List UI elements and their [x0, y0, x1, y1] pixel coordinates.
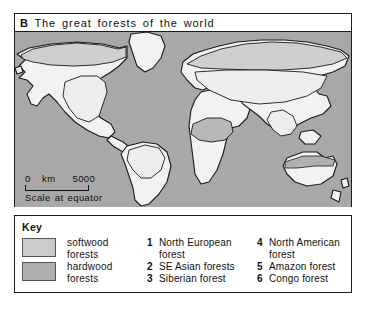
softwood-swatch-label: softwood forests	[67, 237, 109, 260]
hardwood-swatch-label: hardwood forests	[67, 261, 113, 284]
key-item-4-line1: North American	[269, 237, 340, 248]
key-item-5-index: 5	[257, 261, 266, 273]
hardwood-swatch-icon	[22, 262, 56, 281]
key-item-1: 1 North European forest	[147, 237, 257, 260]
scale-bar-max-label: 5000	[72, 173, 95, 184]
softwood-label-line1: softwood	[67, 237, 109, 248]
key-item-2-label: SE Asian forests	[159, 261, 235, 273]
softwood-swatch-icon	[22, 238, 56, 257]
key-item-3-label: Siberian forest	[159, 273, 226, 285]
key-swatch-item-softwood: softwood forests	[22, 237, 147, 260]
map-title-bar: B The great forests of the world	[15, 14, 351, 32]
softwood-label-line2: forests	[67, 249, 98, 260]
key-columns: softwood forests hardwood forests 1	[22, 237, 351, 285]
key-item-6-index: 6	[257, 273, 266, 285]
key-numbered-column-1: 1 North European forest 2 SE Asian fores…	[147, 237, 257, 285]
forest-map-figure: B The great forests of the world	[0, 0, 368, 311]
key-item-5-label: Amazon forest	[269, 261, 335, 273]
map-panel: B The great forests of the world	[14, 13, 352, 207]
key-item-1-index: 1	[147, 237, 156, 249]
key-swatch-column: softwood forests hardwood forests	[22, 237, 147, 285]
key-swatch-item-hardwood: hardwood forests	[22, 261, 147, 284]
key-item-1-line2: forest	[159, 249, 185, 260]
key-item-6: 6 Congo forest	[257, 273, 365, 285]
scale-bar: 0 km 5000 Scale at equator	[25, 173, 103, 203]
scale-bar-caption: Scale at equator	[25, 192, 103, 203]
key-item-4-line2: forest	[269, 249, 295, 260]
map-canvas: 0 km 5000 Scale at equator	[15, 32, 351, 207]
key-item-1-label: North European forest	[159, 237, 232, 260]
page-title: The great forests of the world	[34, 17, 214, 29]
key-item-3: 3 Siberian forest	[147, 273, 257, 285]
panel-letter: B	[20, 17, 28, 29]
hardwood-label-line2: forests	[67, 273, 98, 284]
key-item-4-label: North American forest	[269, 237, 340, 260]
key-panel: Key softwood forests hardwood forests	[14, 215, 352, 293]
key-item-2: 2 SE Asian forests	[147, 261, 257, 273]
key-item-3-index: 3	[147, 273, 156, 285]
key-item-5: 5 Amazon forest	[257, 261, 365, 273]
west-edge-island	[15, 66, 23, 74]
hardwood-label-line1: hardwood	[67, 261, 113, 272]
new-zealand-north-island	[341, 178, 349, 188]
key-item-1-line1: North European	[159, 237, 232, 248]
key-item-4: 4 North American forest	[257, 237, 365, 260]
key-item-4-index: 4	[257, 237, 266, 249]
key-item-2-index: 2	[147, 261, 156, 273]
key-item-6-label: Congo forest	[269, 273, 328, 285]
scale-bar-rule	[25, 185, 89, 191]
scale-bar-unit-label: km	[42, 173, 55, 184]
scale-bar-numbers: 0 km 5000	[25, 173, 103, 184]
key-heading: Key	[22, 221, 351, 233]
key-numbered-column-2: 4 North American forest 5 Amazon forest …	[257, 237, 365, 285]
